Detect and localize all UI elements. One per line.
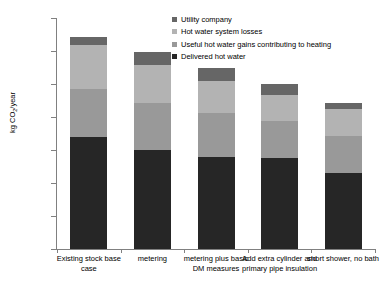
bar-stack xyxy=(198,68,235,249)
y-axis-tick-mark xyxy=(51,216,56,217)
legend-item: Hot water system losses xyxy=(172,27,331,37)
bar-segment xyxy=(198,113,235,157)
legend-label: Useful hot water gains contributing to h… xyxy=(181,40,331,49)
legend-swatch-hot-water-system-losses xyxy=(172,29,177,34)
legend-item: Delivered hot water xyxy=(172,52,331,62)
legend-swatch-useful-hot-water-gains xyxy=(172,42,177,47)
legend-item: Utility company xyxy=(172,14,331,24)
bar-segment xyxy=(134,103,171,150)
bar-segment xyxy=(261,84,298,95)
bar-chart: kg CO2/year 0200400600800100012001400 Ex… xyxy=(0,0,383,294)
bar-segment xyxy=(70,45,107,90)
bar-segment xyxy=(134,65,171,103)
y-axis-tick-mark xyxy=(51,18,56,19)
bar-stack xyxy=(325,103,362,249)
bar-segment xyxy=(261,121,298,157)
bar-segment xyxy=(325,109,362,136)
bar-segment xyxy=(198,157,235,249)
legend-swatch-utility-company xyxy=(172,17,177,22)
legend-label: Hot water system losses xyxy=(181,27,262,36)
bar-stack xyxy=(261,84,298,249)
x-axis-tick-mark xyxy=(311,249,312,253)
bar-segment xyxy=(134,52,171,65)
y-axis-tick-mark xyxy=(51,150,56,151)
y-axis-title-tail: /year xyxy=(8,92,17,109)
bar-segment xyxy=(134,150,171,249)
y-axis-tick-mark xyxy=(51,249,56,250)
legend-label: Utility company xyxy=(181,15,232,24)
bar-segment xyxy=(198,81,235,113)
caption-remnant xyxy=(8,288,178,293)
bar-segment xyxy=(70,137,107,249)
x-axis-category-label: short shower, no bath xyxy=(304,254,382,264)
y-axis-tick-mark xyxy=(51,117,56,118)
legend-label: Delivered hot water xyxy=(181,52,246,61)
bar-segment xyxy=(325,136,362,173)
y-axis-title: kg CO2/year xyxy=(8,73,17,153)
legend-swatch-delivered-hot-water xyxy=(172,54,177,59)
x-axis-tick-mark xyxy=(57,249,58,253)
y-axis-tick-mark xyxy=(51,51,56,52)
legend-item: Useful hot water gains contributing to h… xyxy=(172,39,331,49)
bar-segment xyxy=(70,89,107,137)
bar-segment xyxy=(261,95,298,122)
chart-legend: Utility companyHot water system lossesUs… xyxy=(172,14,331,62)
bar-segment xyxy=(70,37,107,45)
y-axis-title-subscript: 2 xyxy=(11,109,17,112)
bar-segment xyxy=(325,173,362,249)
y-axis-title-main: kg CO xyxy=(8,112,17,133)
bar-stack xyxy=(70,37,107,249)
x-axis-tick-mark xyxy=(375,249,376,253)
y-axis-tick-mark xyxy=(51,84,56,85)
bar-segment xyxy=(198,68,235,80)
bar-segment xyxy=(261,158,298,249)
x-axis-line xyxy=(56,249,376,250)
bar-stack xyxy=(134,52,171,249)
x-axis-tick-mark xyxy=(248,249,249,253)
x-axis-tick-mark xyxy=(184,249,185,253)
y-axis-tick-mark xyxy=(51,183,56,184)
x-axis-tick-mark xyxy=(121,249,122,253)
